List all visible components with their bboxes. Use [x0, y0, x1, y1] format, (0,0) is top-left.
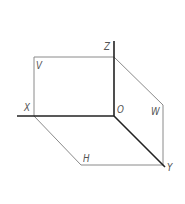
h-plane-edge	[34, 116, 163, 165]
h-plane-label: H	[83, 153, 90, 164]
projection-diagram: Z V X O W H Y	[0, 0, 185, 204]
y-axis-line	[114, 116, 165, 167]
origin-label: O	[117, 104, 124, 115]
z-axis-label: Z	[104, 41, 110, 52]
w-plane-label: W	[151, 106, 160, 117]
v-plane-edge	[34, 57, 114, 116]
v-plane-label: V	[36, 60, 42, 71]
y-axis-label: Y	[167, 162, 172, 173]
x-axis-label: X	[24, 102, 30, 113]
